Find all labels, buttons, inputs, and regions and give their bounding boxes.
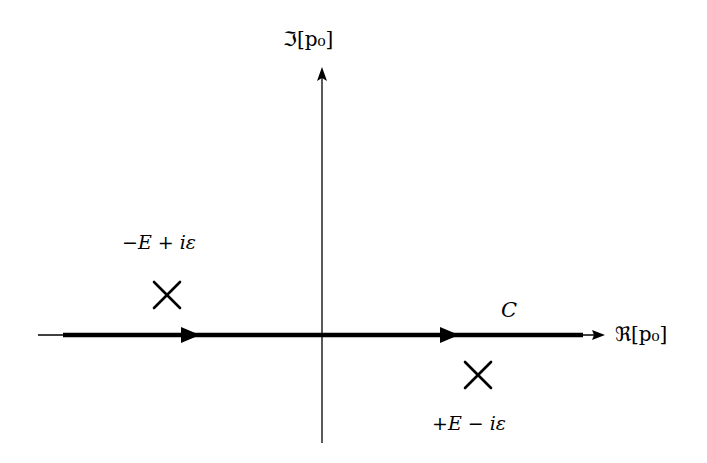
pole-marker-upper-icon (154, 282, 180, 308)
pole-marker-lower-icon (465, 362, 491, 388)
contour-label: C (501, 298, 517, 322)
imaginary-axis-label: ℑ[p₀] (283, 27, 333, 51)
real-axis-label: ℜ[p₀] (615, 322, 667, 346)
contour-arrow-icon (181, 327, 200, 343)
contour-arrow-icon (440, 327, 459, 343)
contour-diagram (0, 0, 707, 463)
pole-label-lower: +E − iε (432, 412, 506, 434)
pole-label-upper: −E + iε (122, 231, 196, 253)
